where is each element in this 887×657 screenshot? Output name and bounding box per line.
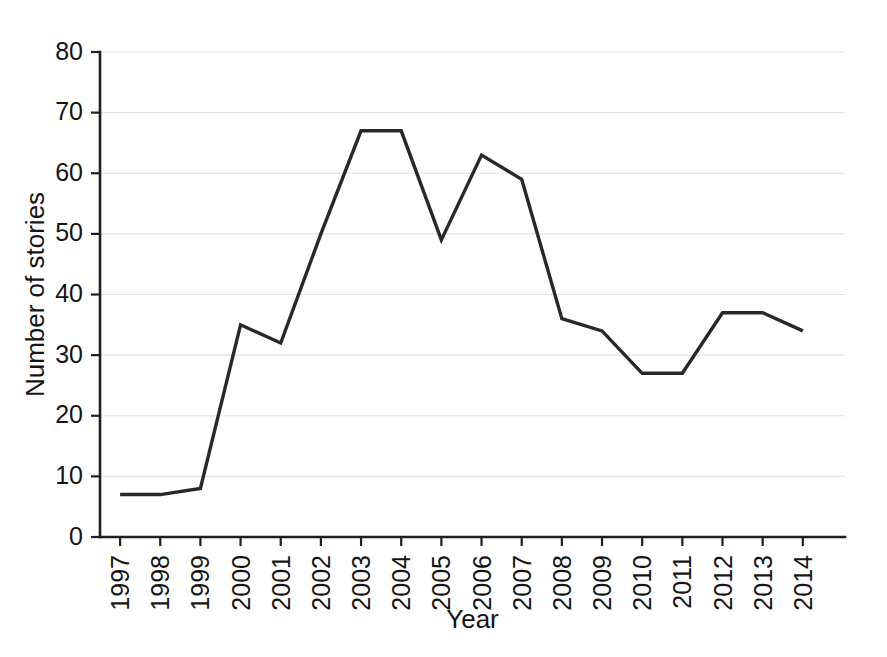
x-tick-label: 2012 [709,555,737,611]
x-tick-label: 2013 [749,555,777,611]
x-tick-label: 2007 [508,555,536,611]
line-chart-canvas: 01020304050607080 1997199819992000200120… [0,0,887,657]
y-tick-label: 10 [55,461,83,489]
x-tick-label: 2010 [628,555,656,611]
x-tick-label: 2014 [789,555,817,611]
y-tick-label: 80 [55,37,83,65]
x-tick-label: 2009 [588,555,616,611]
x-tick-label: 1999 [186,555,214,611]
x-tick-label: 2008 [548,555,576,611]
chart-figure: 01020304050607080 1997199819992000200120… [0,0,887,657]
x-tick-label: 2002 [307,555,335,611]
x-tick-label: 2000 [227,555,255,611]
y-tick-label: 0 [69,522,83,550]
x-tick-label: 2001 [267,555,295,611]
x-tick-label: 2011 [668,555,696,609]
y-axis-title: Number of stories [20,192,50,397]
x-tick-label: 2003 [347,555,375,611]
y-axis-tick-labels: 01020304050607080 [55,37,83,550]
x-axis-title: Year [446,604,499,634]
y-tick-label: 30 [55,340,83,368]
x-tick-label: 1997 [106,555,134,611]
y-tick-label: 40 [55,279,83,307]
y-tick-label: 70 [55,97,83,125]
x-tick-label: 1998 [146,555,174,611]
y-tick-label: 50 [55,218,83,246]
x-tick-label: 2004 [387,555,415,611]
x-tick-label: 2005 [427,555,455,611]
y-tick-label: 60 [55,158,83,186]
y-tick-label: 20 [55,400,83,428]
x-tick-label: 2006 [468,555,496,611]
